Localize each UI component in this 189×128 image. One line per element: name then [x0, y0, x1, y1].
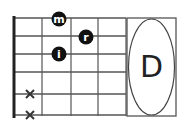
finger-dot-m: m: [52, 12, 67, 27]
finger-label: r: [83, 31, 89, 44]
finger-label: m: [53, 13, 64, 26]
finger-label: i: [57, 48, 61, 61]
finger-dot-r: r: [79, 30, 94, 45]
chord-diagram: D m r i: [0, 0, 189, 128]
chord-name: D: [140, 49, 163, 84]
strings: [14, 18, 126, 115]
finger-dot-i: i: [52, 47, 67, 62]
